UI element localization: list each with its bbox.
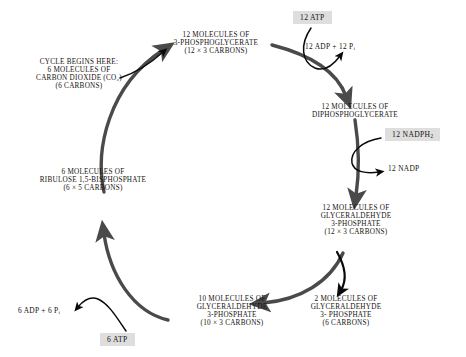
arrow-nadph-to-nadp: [352, 138, 381, 173]
label-ribulose-bisphosphate: 6 MOLECULES OF RIBULOSE 1,5-BISPHOSPHATE…: [22, 168, 164, 192]
label-diphosphoglycerate: 12 MOLECULES OF DIPHOSPHOGLYCERATE: [291, 103, 419, 119]
label-atp-12: 12 ATP: [293, 11, 332, 24]
label-nadp-12: 12 NADP: [388, 164, 419, 173]
label-carbon-dioxide: CYCLE BEGINS HERE: 6 MOLECULES OF CARBON…: [14, 58, 144, 90]
diagram-canvas: CYCLE BEGINS HERE: 6 MOLECULES OF CARBON…: [0, 0, 466, 357]
arrow-g3p12-to-g3p2: [337, 252, 344, 290]
label-glyceraldehyde-3-phosphate-12: 12 MOLECULES OF GLYCERALDEHYDE 3-PHOSPHA…: [300, 204, 412, 236]
label-glyceraldehyde-3-phosphate-2: 2 MOLECULES OF GLYCERALDEHYDE 3- PHOSPHA…: [294, 295, 398, 327]
arrow-atp6-to-adp6: [78, 298, 126, 331]
label-nadph-12: 12 NADPH2: [385, 128, 440, 141]
label-glyceraldehyde-3-phosphate-10: 10 MOLECULES OF GLYCERALDEHYDE 3-PHOSPHA…: [177, 295, 287, 327]
label-3-phosphoglycerate: 12 MOLECULES OF 3-PHOSPHOGLYCERATE (12 ×…: [160, 31, 272, 55]
label-adp-12: 12 ADP + 12 Pi: [305, 42, 355, 51]
label-adp-6: 6 ADP + 6 Pi: [18, 306, 60, 315]
label-atp-6: 6 ATP: [100, 333, 135, 346]
